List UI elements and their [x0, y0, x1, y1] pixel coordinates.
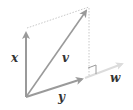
- dotted-top-edge: [27, 7, 89, 28]
- label-x: x: [10, 51, 19, 65]
- diagram-canvas: x v y w: [0, 0, 133, 110]
- label-y: y: [57, 90, 66, 104]
- vector-diagram: x v y w: [0, 0, 133, 110]
- vector-v-arrow: [26, 11, 86, 97]
- vector-y-arrow: [26, 79, 82, 97]
- label-w: w: [110, 71, 121, 85]
- label-v: v: [62, 51, 70, 65]
